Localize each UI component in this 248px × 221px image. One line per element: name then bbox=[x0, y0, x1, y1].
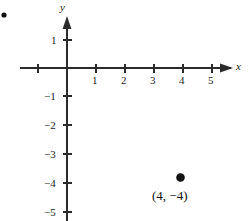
x-tick-label-1: 1 bbox=[92, 75, 98, 86]
y-tick-label-neg2: −2 bbox=[44, 120, 56, 131]
y-axis-label: y bbox=[60, 2, 65, 13]
x-axis-label: x bbox=[236, 61, 241, 72]
y-tick-label-neg4: −4 bbox=[44, 178, 56, 189]
x-axis-arrowhead bbox=[220, 64, 233, 73]
data-point-annotation: (4, −4) bbox=[152, 189, 188, 202]
plot-canvas bbox=[0, 0, 248, 221]
y-tick-label-1: 1 bbox=[51, 35, 57, 46]
y-axis-arrowhead bbox=[63, 16, 72, 29]
y-tick-label-neg1: −1 bbox=[44, 91, 56, 102]
x-tick-label-5: 5 bbox=[208, 75, 214, 86]
y-tick-label-neg3: −3 bbox=[44, 149, 56, 160]
list-bullet-icon bbox=[1, 12, 6, 17]
data-point-4-neg4 bbox=[176, 173, 185, 182]
y-tick-label-neg5: −5 bbox=[44, 207, 56, 218]
x-tick-label-2: 2 bbox=[121, 75, 127, 86]
coordinate-plane-figure: x y 1 2 3 4 5 1 −1 −2 −3 −4 −5 (4, −4) bbox=[0, 0, 248, 221]
x-tick-label-4: 4 bbox=[179, 75, 185, 86]
x-tick-label-3: 3 bbox=[150, 75, 156, 86]
